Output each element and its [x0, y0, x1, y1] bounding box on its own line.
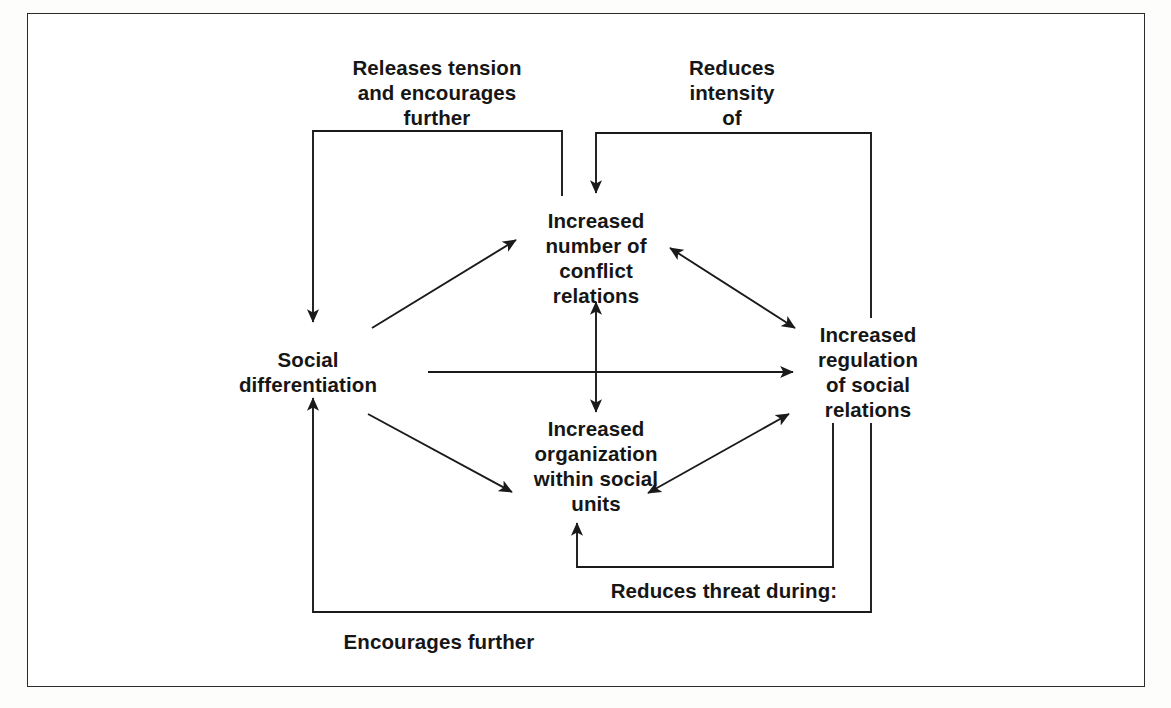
node-social-differentiation: Social differentiation — [178, 347, 438, 397]
edge-label-reduces-intensity: Reduces intensity of — [632, 55, 832, 130]
node-social-organization: Increased organization within social uni… — [481, 416, 711, 516]
edge-label-releases-tension: Releases tension and encourages further — [307, 55, 567, 130]
figure-root: Social differentiation Increased number … — [0, 0, 1171, 708]
edge-label-reduces-threat: Reduces threat during: — [574, 578, 874, 603]
edge-label-encourages-further: Encourages further — [289, 629, 589, 654]
node-social-regulation: Increased regulation of social relations — [758, 322, 978, 422]
node-conflict-relations: Increased number of conflict relations — [486, 208, 706, 308]
